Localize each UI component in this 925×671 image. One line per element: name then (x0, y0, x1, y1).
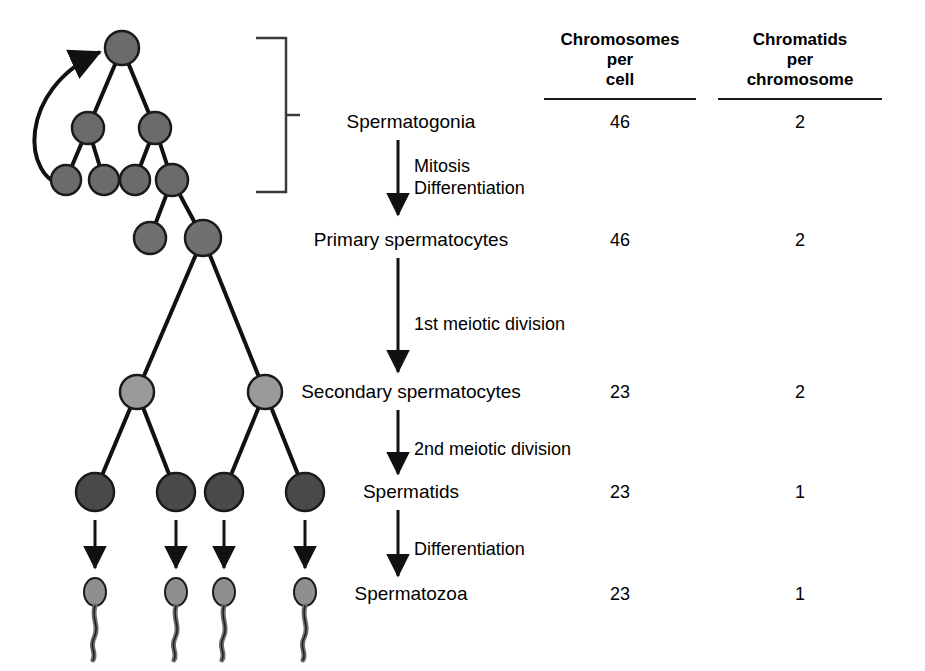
value-chromosomes-spermatogonia: 46 (610, 112, 630, 132)
value-chromatids-secondary-spermatocytes: 2 (795, 382, 805, 402)
spermatid-differentiation-arrows (95, 520, 305, 568)
cell-spermatozoon (165, 578, 187, 660)
column-header-line2: per (520, 50, 720, 70)
cell-spermatogonium-stem (105, 31, 139, 65)
process-line: 1st meiotic division (414, 313, 565, 335)
value-chromosomes-spermatids: 23 (610, 482, 630, 502)
value-chromatids-primary-spermatocytes: 2 (795, 230, 805, 250)
column-header-rule-chromatids (718, 98, 882, 100)
column-header-line1: Chromatids (700, 30, 900, 50)
cell-secondary-spermatocyte (120, 375, 154, 409)
process-line: Mitosis (414, 155, 525, 177)
cell-spermatogonium (139, 112, 171, 144)
process-line: 2nd meiotic division (414, 438, 571, 460)
stage-label-primary-spermatocytes: Primary spermatocytes (314, 229, 508, 251)
value-chromosomes-secondary-spermatocytes: 23 (610, 382, 630, 402)
value-chromatids-spermatozoa: 1 (795, 584, 805, 604)
column-header-line3: chromosome (700, 70, 900, 90)
column-header-chromatids-per-chromosome: Chromatids per chromosome (700, 30, 900, 90)
cell-lineage-diagram (0, 0, 925, 671)
cell-spermatozoon (213, 578, 235, 660)
stage-label-spermatids: Spermatids (363, 481, 459, 503)
cell-spermatid (205, 473, 243, 511)
value-chromosomes-spermatozoa: 23 (610, 584, 630, 604)
column-header-line2: per (700, 50, 900, 70)
value-chromatids-spermatogonia: 2 (795, 112, 805, 132)
value-chromosomes-primary-spermatocytes: 46 (610, 230, 630, 250)
process-label-differentiation: Differentiation (414, 538, 525, 560)
spermatozoa-group (84, 578, 316, 660)
value-chromatids-spermatids: 1 (795, 482, 805, 502)
cell-spermatozoon (294, 578, 316, 660)
process-label-second-meiotic-division: 2nd meiotic division (414, 438, 571, 460)
column-header-chromosomes-per-cell: Chromosomes per cell (520, 30, 720, 90)
spermatogenesis-figure: Chromosomes per cell Chromatids per chro… (0, 0, 925, 671)
cell-secondary-spermatocyte (248, 375, 282, 409)
cell-primary-spermatocyte (185, 220, 221, 256)
column-header-line1: Chromosomes (520, 30, 720, 50)
spermatogonia-bracket (256, 38, 300, 192)
cell-spermatid (157, 473, 195, 511)
cell-spermatid (286, 473, 324, 511)
process-line: Differentiation (414, 177, 525, 199)
cell-spermatogonium (51, 165, 81, 195)
cell-spermatozoon (84, 578, 106, 660)
process-label-mitosis-differentiation: Mitosis Differentiation (414, 155, 525, 199)
column-header-line3: cell (520, 70, 720, 90)
cell-spermatogonium (72, 112, 104, 144)
cell-spermatogonium (156, 164, 188, 196)
cell-spermatogonium (120, 165, 150, 195)
stage-label-secondary-spermatocytes: Secondary spermatocytes (301, 381, 521, 403)
stage-label-spermatogonia: Spermatogonia (347, 111, 476, 133)
process-line: Differentiation (414, 538, 525, 560)
lineage-connectors (66, 48, 305, 492)
cell-spermatid (76, 473, 114, 511)
column-header-rule-chromosomes (544, 98, 696, 100)
cell-spermatogonium (89, 165, 119, 195)
process-label-first-meiotic-division: 1st meiotic division (414, 313, 565, 335)
stage-label-spermatozoa: Spermatozoa (354, 583, 467, 605)
cell-primary-spermatocyte (134, 222, 166, 254)
